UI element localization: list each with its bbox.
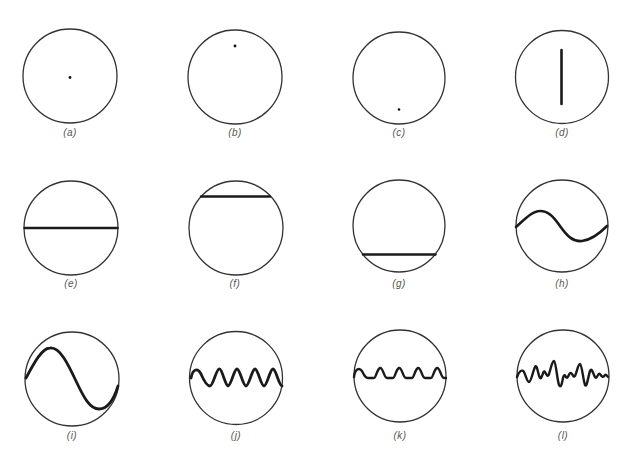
panel-label-b: (b) [175,127,295,138]
panel-label-c: (c) [339,127,459,138]
trace-dot-a [69,76,72,79]
screen-circle-g [353,180,445,272]
trace-sine-h [516,211,607,241]
panel-label-a: (a) [10,127,130,138]
screen-circle-a [23,29,117,123]
panel-label-l: (l) [503,430,623,441]
trace-dot-b [234,45,237,48]
panel-label-e: (e) [11,278,131,289]
screen-circle-f [189,181,283,275]
trace-complex-l [517,361,608,386]
trace-sine-i [26,348,118,409]
figure-canvas [0,0,633,460]
trace-pulse-k [354,368,446,378]
panel-label-j: (j) [176,430,296,441]
trace-dot-c [398,108,401,111]
screen-circle-h [516,180,608,272]
panel-label-g: (g) [339,278,459,289]
panel-label-f: (f) [175,278,295,289]
panel-label-h: (h) [502,278,622,289]
panel-label-d: (d) [502,127,622,138]
screen-circle-b [188,30,282,124]
oscilloscope-figure: (a) (b) (c) (d) (e) (f) (g) (h) (i) (j) … [0,0,633,460]
panel-label-k: (k) [340,430,460,441]
panel-label-i: (i) [12,430,132,441]
trace-sine-j [191,369,282,386]
screen-circle-i [25,332,119,426]
